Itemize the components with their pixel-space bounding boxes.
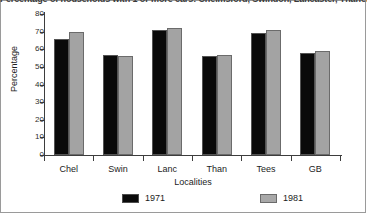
- bar-than-1971: [202, 56, 217, 155]
- bar-chel-1971: [54, 39, 69, 155]
- bar-swin-1981: [118, 56, 133, 155]
- y-tick-label: 10: [8, 133, 44, 141]
- legend-item-1981: 1981: [260, 192, 303, 204]
- legend-label-1971: 1971: [145, 193, 165, 203]
- x-axis-line: [44, 155, 342, 156]
- x-tick-mark: [241, 156, 242, 161]
- legend-swatch-1981: [260, 194, 277, 203]
- bar-chart-figure: Percentage of households with 1 or more …: [0, 0, 367, 214]
- x-tick-mark: [340, 156, 341, 161]
- x-tick-mark: [291, 156, 292, 161]
- chart-legend: 19711981: [44, 192, 342, 206]
- bar-chel-1981: [69, 32, 84, 155]
- chart-title: Percentage of households with 1 or more …: [0, 0, 367, 4]
- x-axis-title: Localities: [44, 177, 342, 187]
- bar-swin-1971: [103, 55, 118, 155]
- x-tick-mark: [143, 156, 144, 161]
- bar-gb-1971: [300, 53, 315, 155]
- legend-swatch-1971: [122, 194, 139, 203]
- x-tick-label-gb: GB: [285, 164, 345, 175]
- bar-lanc-1971: [152, 30, 167, 155]
- x-tick-mark: [44, 156, 45, 161]
- y-tick-label: 0: [8, 151, 44, 159]
- bar-tees-1981: [266, 30, 281, 155]
- plot-area: [44, 14, 340, 155]
- legend-label-1981: 1981: [283, 193, 303, 203]
- y-axis-ticks: 01020304050607080: [0, 0, 44, 214]
- legend-item-1971: 1971: [122, 192, 165, 204]
- x-tick-mark: [93, 156, 94, 161]
- bar-tees-1971: [251, 33, 266, 155]
- y-axis-title: Percentage: [9, 9, 19, 129]
- bar-lanc-1981: [167, 28, 182, 155]
- x-tick-mark: [192, 156, 193, 161]
- bar-than-1981: [217, 55, 232, 155]
- bar-gb-1981: [315, 51, 330, 155]
